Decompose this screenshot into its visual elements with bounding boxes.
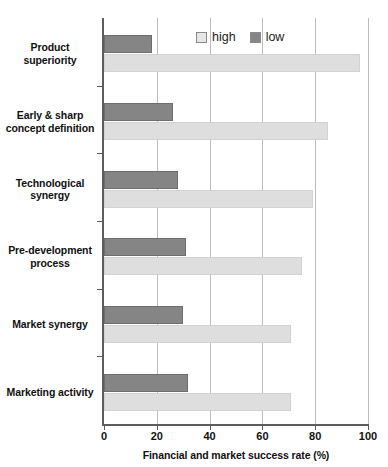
category-label-line: concept definition <box>6 122 95 134</box>
y-axis-tick <box>97 356 104 357</box>
y-axis-tick <box>97 221 104 222</box>
bar-low <box>104 238 186 256</box>
x-axis-title: Financial and market success rate (%) <box>104 449 368 461</box>
x-axis-tick-label: 40 <box>203 430 215 442</box>
x-axis-tick-label: 80 <box>309 430 321 442</box>
bar-high <box>104 190 313 208</box>
bar-high <box>104 54 360 72</box>
bar-high <box>104 325 291 343</box>
x-axis-line <box>102 424 368 426</box>
category-label: Productsuperiority <box>0 41 100 66</box>
plot-area <box>104 18 368 424</box>
category-label-line: Early & sharp <box>17 109 83 121</box>
bar-low <box>104 306 183 324</box>
gridline <box>315 18 316 424</box>
category-label: Marketing activity <box>0 386 100 399</box>
category-label-line: synergy <box>30 189 70 201</box>
category-label: Early & sharpconcept definition <box>0 109 100 134</box>
category-label-line: superiority <box>23 54 76 66</box>
x-axis-tick-label: 60 <box>256 430 268 442</box>
category-label: Technologicalsynergy <box>0 177 100 202</box>
bar-high <box>104 257 302 275</box>
x-axis-tick-labels: 020406080100 <box>104 430 368 444</box>
bar-chart: high low ProductsuperiorityEarly & sharp… <box>0 0 388 467</box>
bar-low <box>104 35 152 53</box>
category-label-line: Technological <box>16 177 85 189</box>
y-axis-tick <box>97 289 104 290</box>
category-label-line: process <box>30 257 70 269</box>
gridline <box>368 18 369 424</box>
bar-high <box>104 393 291 411</box>
x-axis-tick-label: 20 <box>151 430 163 442</box>
bar-high <box>104 122 328 140</box>
y-axis-tick <box>97 153 104 154</box>
gridline <box>210 18 211 424</box>
category-label-line: Product <box>31 41 70 53</box>
category-label: Market synergy <box>0 318 100 331</box>
bar-low <box>104 374 188 392</box>
category-label-line: Pre-development <box>8 244 92 256</box>
y-axis-tick <box>97 86 104 87</box>
category-label-line: Market synergy <box>12 318 88 330</box>
gridline <box>157 18 158 424</box>
category-label-line: Marketing activity <box>7 386 94 398</box>
gridline <box>262 18 263 424</box>
category-axis-labels: ProductsuperiorityEarly & sharpconcept d… <box>0 18 100 424</box>
x-axis-tick-label: 100 <box>359 430 377 442</box>
x-axis-tick-label: 0 <box>101 430 107 442</box>
bar-low <box>104 171 178 189</box>
bar-low <box>104 103 173 121</box>
category-label: Pre-developmentprocess <box>0 244 100 269</box>
